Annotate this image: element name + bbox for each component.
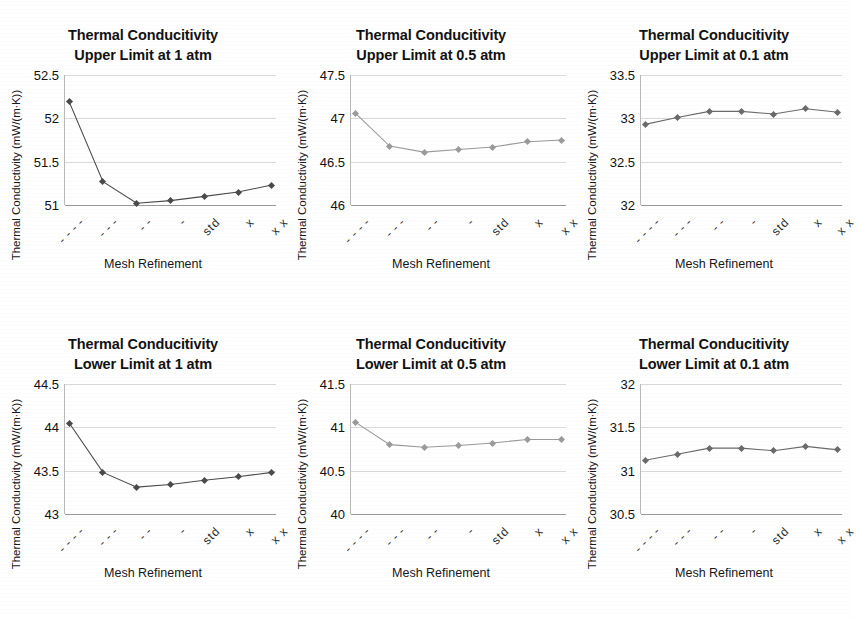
x-tick-label: - (747, 215, 760, 228)
data-series-lower-1atm (65, 384, 276, 514)
x-tick-label: - - (136, 524, 155, 543)
chart-panel-upper-1atm: Thermal Conducitivity Upper Limit at 1 a… (0, 0, 286, 309)
y-axis-label: Thermal Conductivity (mW/(m∙K)) (296, 75, 308, 275)
series-line (69, 102, 272, 203)
plot-area (640, 384, 842, 514)
x-tick-label: x (242, 215, 257, 230)
x-axis-ticks: - - - -- - -- --stdxx x (350, 516, 566, 560)
x-tick-label: - (176, 215, 189, 228)
chart-body: Thermal Conductivity (mW/(m∙K))4646.5474… (286, 75, 576, 275)
gridline (65, 514, 276, 515)
y-axis-ticks: 30.53131.532 (604, 384, 638, 514)
chart-title: Thermal Conducitivity Upper Limit at 0.5… (286, 0, 576, 65)
x-axis-ticks: - - - -- - -- --stdxx x (350, 207, 566, 251)
y-axis-ticks: 5151.55252.5 (28, 75, 62, 205)
x-tick-label: std (200, 215, 223, 238)
x-axis-title: Mesh Refinement (28, 566, 278, 580)
x-tick-label: x (810, 215, 825, 230)
chart-body: Thermal Conductivity (mW/(m∙K))3232.5333… (576, 75, 852, 275)
x-axis-title: Mesh Refinement (314, 566, 568, 580)
series-line (69, 423, 272, 487)
plot-wrap: 4646.54747.5- - - -- - -- --stdxx x (314, 75, 568, 275)
gridline (351, 205, 566, 206)
x-axis-title: Mesh Refinement (314, 257, 568, 271)
chart-title: Thermal Conducitivity Upper Limit at 1 a… (0, 0, 286, 65)
gridline (641, 514, 842, 515)
plot-area (64, 384, 276, 514)
x-axis-ticks: - - - -- - -- --stdxx x (640, 207, 842, 251)
x-tick-label: std (200, 524, 223, 547)
chart-title: Thermal Conducitivity Lower Limit at 1 a… (0, 309, 286, 374)
y-tick-label: 33 (621, 111, 635, 126)
x-tick-label: - - (423, 215, 442, 234)
x-axis-title: Mesh Refinement (604, 566, 844, 580)
y-tick-label: 51.5 (34, 154, 59, 169)
y-tick-label: 32 (621, 377, 635, 392)
y-axis-label: Thermal Conductivity (mW/(m∙K)) (586, 75, 598, 275)
y-axis-label: Thermal Conductivity (mW/(m∙K)) (586, 384, 598, 584)
x-tick-label: - - - - (56, 215, 88, 247)
x-axis-ticks: - - - -- - -- --stdxx x (640, 516, 842, 560)
chart-title: Thermal Conducitivity Lower Limit at 0.1… (576, 309, 852, 374)
plot-wrap: 30.53131.532- - - -- - -- --stdxx x (604, 384, 844, 584)
y-tick-label: 40 (331, 507, 345, 522)
y-tick-label: 47.5 (320, 68, 345, 83)
x-tick-label: x (242, 524, 257, 539)
x-tick-label: x (531, 524, 546, 539)
x-tick-label: - - - (670, 524, 695, 549)
x-tick-label: std (769, 524, 792, 547)
y-axis-ticks: 4040.54141.5 (314, 384, 348, 514)
chart-title: Thermal Conducitivity Lower Limit at 0.5… (286, 309, 576, 374)
plot-area (350, 75, 566, 205)
x-tick-label: - (464, 215, 477, 228)
x-tick-label: x x (834, 215, 857, 238)
chart-body: Thermal Conductivity (mW/(m∙K))4343.5444… (0, 384, 286, 584)
y-tick-label: 51 (45, 198, 59, 213)
x-tick-label: std (769, 215, 792, 238)
chart-body: Thermal Conductivity (mW/(m∙K))4040.5414… (286, 384, 576, 584)
x-tick-label: - - (136, 215, 155, 234)
plot-area (350, 384, 566, 514)
y-tick-label: 52.5 (34, 68, 59, 83)
x-tick-label: - (464, 524, 477, 537)
data-series-upper-01atm (641, 75, 842, 205)
x-tick-label: - - - - (631, 524, 663, 556)
x-tick-label: - - - - (631, 215, 663, 247)
chart-body: Thermal Conductivity (mW/(m∙K))5151.5525… (0, 75, 286, 275)
chart-panel-lower-05atm: Thermal Conducitivity Lower Limit at 0.5… (286, 309, 576, 618)
x-tick-label: - - - - (342, 524, 374, 556)
x-tick-label: - - - (382, 524, 407, 549)
chart-panel-lower-1atm: Thermal Conducitivity Lower Limit at 1 a… (0, 309, 286, 618)
x-tick-label: - - - - (342, 215, 374, 247)
plot-wrap: 4040.54141.5- - - -- - -- --stdxx x (314, 384, 568, 584)
x-tick-label: - - - - (56, 524, 88, 556)
y-axis-label: Thermal Conductivity (mW/(m∙K)) (10, 75, 22, 275)
x-axis-title: Mesh Refinement (28, 257, 278, 271)
y-tick-label: 41 (331, 420, 345, 435)
x-tick-label: - - - (670, 215, 695, 240)
gridline (641, 205, 842, 206)
x-tick-label: - (747, 524, 760, 537)
x-tick-label: - - (708, 524, 727, 543)
x-tick-label: - - - (96, 215, 121, 240)
gridline (351, 514, 566, 515)
x-tick-label: - - (708, 215, 727, 234)
y-axis-ticks: 4646.54747.5 (314, 75, 348, 205)
plot-area (64, 75, 276, 205)
x-axis-ticks: - - - -- - -- --stdxx x (64, 207, 276, 251)
chart-panel-lower-01atm: Thermal Conducitivity Lower Limit at 0.1… (576, 309, 852, 618)
x-axis-title: Mesh Refinement (604, 257, 844, 271)
y-tick-label: 30.5 (610, 507, 635, 522)
x-tick-label: - - - (96, 524, 121, 549)
x-tick-label: - (176, 524, 189, 537)
y-tick-label: 41.5 (320, 377, 345, 392)
chart-title: Thermal Conducitivity Upper Limit at 0.1… (576, 0, 852, 65)
data-series-upper-05atm (351, 75, 566, 205)
y-tick-label: 44 (45, 420, 59, 435)
y-tick-label: 31 (621, 463, 635, 478)
y-tick-label: 52 (45, 111, 59, 126)
data-series-upper-1atm (65, 75, 276, 205)
y-tick-label: 43.5 (34, 463, 59, 478)
plot-wrap: 4343.54444.5- - - -- - -- --stdxx x (28, 384, 278, 584)
